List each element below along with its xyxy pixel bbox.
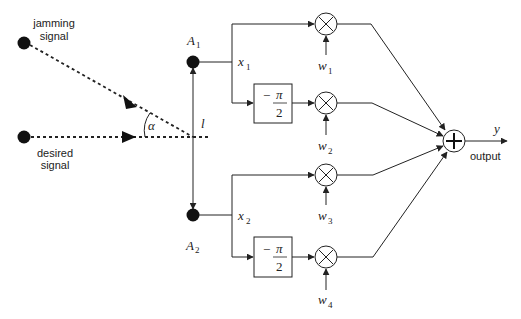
jamming-label-1: jamming <box>32 17 75 29</box>
mult3-to-sum <box>337 146 443 175</box>
multiplier-2: w 2 <box>315 92 337 156</box>
desired-label-2: signal <box>41 159 70 171</box>
adaptive-array-diagram: jamming signal desired signal α l A 1 A … <box>0 0 521 319</box>
w1-label: w <box>318 58 327 73</box>
angle-label: α <box>148 118 156 133</box>
antenna-a2: A 2 <box>185 209 200 256</box>
mult1-to-sum <box>337 24 445 130</box>
x2-label: x <box>237 208 244 223</box>
mult2-to-sum <box>337 103 443 136</box>
svg-text:1: 1 <box>246 62 251 72</box>
svg-text:2: 2 <box>328 146 333 156</box>
svg-text:1: 1 <box>328 66 333 76</box>
svg-text:1: 1 <box>196 40 201 50</box>
svg-text:2: 2 <box>246 216 251 226</box>
svg-text:−: − <box>263 242 270 257</box>
jamming-arrow-icon <box>123 95 137 109</box>
multiplier-3: w 3 <box>315 164 337 226</box>
jamming-ray <box>30 45 193 137</box>
svg-text:A: A <box>186 33 195 48</box>
antenna-a1: A 1 <box>186 33 201 69</box>
svg-text:3: 3 <box>328 216 333 226</box>
spacing-label: l <box>201 116 205 131</box>
svg-text:π: π <box>276 87 283 102</box>
svg-text:2: 2 <box>276 259 283 274</box>
svg-text:2: 2 <box>195 245 200 255</box>
desired-label-1: desired <box>37 147 73 159</box>
summer <box>443 130 465 152</box>
mult4-to-sum <box>337 152 447 257</box>
multiplier-1: w 1 <box>315 13 337 76</box>
svg-text:A: A <box>185 238 194 253</box>
w4-label: w <box>318 292 327 307</box>
output-label: output <box>470 150 501 162</box>
svg-text:4: 4 <box>328 300 333 310</box>
x1-label: x <box>237 54 244 69</box>
svg-text:−: − <box>263 88 270 103</box>
jamming-source: jamming signal <box>18 17 75 50</box>
output-symbol: y <box>492 121 500 136</box>
w2-label: w <box>318 138 327 153</box>
phase-shifter-1: − π 2 <box>254 84 292 123</box>
svg-text:2: 2 <box>276 105 283 120</box>
desired-arrow-icon <box>122 131 136 143</box>
w3-label: w <box>318 208 327 223</box>
multiplier-4: w 4 <box>315 246 337 310</box>
phase-shifter-2: − π 2 <box>254 237 292 277</box>
svg-text:π: π <box>276 241 283 256</box>
jamming-label-2: signal <box>40 30 69 42</box>
